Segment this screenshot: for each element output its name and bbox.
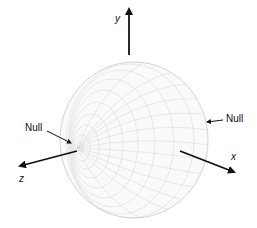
diagram-canvas (0, 0, 257, 228)
null-right-pointer (207, 120, 223, 122)
pattern-sphere (60, 50, 210, 228)
null-right-label: Null (226, 114, 243, 124)
y-axis-label: y (115, 14, 120, 24)
radiation-pattern-diagram: y z x Null Null (0, 0, 257, 228)
x-axis-label: x (231, 152, 236, 162)
null-left-label: Null (25, 123, 42, 133)
z-axis-label: z (19, 174, 24, 184)
